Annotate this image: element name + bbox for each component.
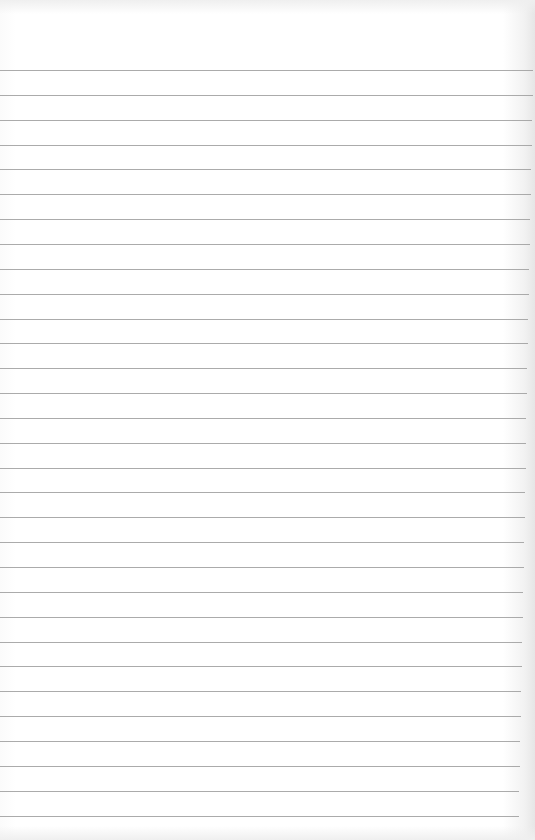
ruled-line	[0, 70, 533, 71]
ruled-line	[0, 294, 529, 295]
ruled-line	[0, 219, 530, 220]
ruled-line	[0, 816, 519, 817]
ruled-line	[0, 542, 524, 543]
ruled-line	[0, 319, 528, 320]
ruled-line	[0, 169, 531, 170]
ruled-lines	[0, 0, 535, 840]
ruled-line	[0, 95, 533, 96]
lined-paper-sheet	[0, 0, 535, 840]
ruled-line	[0, 368, 527, 369]
ruled-line	[0, 691, 521, 692]
ruled-line	[0, 418, 526, 419]
ruled-line	[0, 592, 523, 593]
ruled-line	[0, 244, 530, 245]
ruled-line	[0, 567, 524, 568]
ruled-line	[0, 393, 527, 394]
ruled-line	[0, 791, 519, 792]
ruled-line	[0, 517, 525, 518]
ruled-line	[0, 120, 532, 121]
ruled-line	[0, 443, 526, 444]
ruled-line	[0, 492, 525, 493]
ruled-line	[0, 468, 526, 469]
ruled-line	[0, 269, 529, 270]
ruled-line	[0, 716, 521, 717]
ruled-line	[0, 343, 528, 344]
ruled-line	[0, 617, 523, 618]
ruled-line	[0, 145, 532, 146]
ruled-line	[0, 194, 531, 195]
ruled-line	[0, 642, 522, 643]
ruled-line	[0, 741, 520, 742]
ruled-line	[0, 766, 520, 767]
ruled-line	[0, 666, 522, 667]
